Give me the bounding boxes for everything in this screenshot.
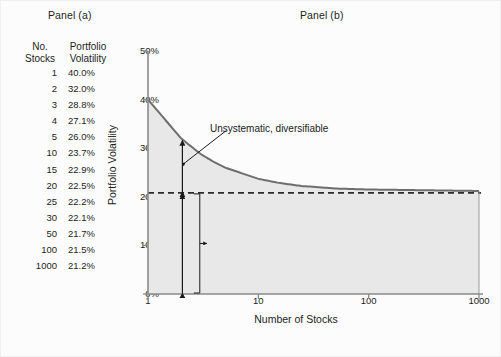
column-header-stocks-line2: Stocks <box>19 53 61 65</box>
volatility-chart: Portfolio Volatility Number of Stocks 0%… <box>97 41 495 341</box>
cell-stocks: 1000 <box>19 258 61 274</box>
area-fill <box>148 100 479 294</box>
cell-stocks: 2 <box>19 81 61 97</box>
cell-stocks: 50 <box>19 226 61 242</box>
cell-stocks: 15 <box>19 162 61 178</box>
cell-stocks: 1 <box>19 65 61 81</box>
cell-stocks: 4 <box>19 113 61 129</box>
cell-stocks: 100 <box>19 242 61 258</box>
figure-page: Panel (a) Panel (b) No. Stocks Portfolio… <box>0 0 501 357</box>
panel-b-caption: Panel (b) <box>300 9 344 21</box>
column-header-stocks: No. Stocks <box>19 41 61 65</box>
cell-stocks: 10 <box>19 145 61 161</box>
cell-stocks: 30 <box>19 210 61 226</box>
cell-stocks: 20 <box>19 178 61 194</box>
column-header-stocks-line1: No. <box>32 41 48 52</box>
cell-stocks: 3 <box>19 97 61 113</box>
plot-svg <box>97 41 495 341</box>
cell-stocks: 5 <box>19 129 61 145</box>
panel-a-caption: Panel (a) <box>48 9 92 21</box>
cell-stocks: 25 <box>19 194 61 210</box>
